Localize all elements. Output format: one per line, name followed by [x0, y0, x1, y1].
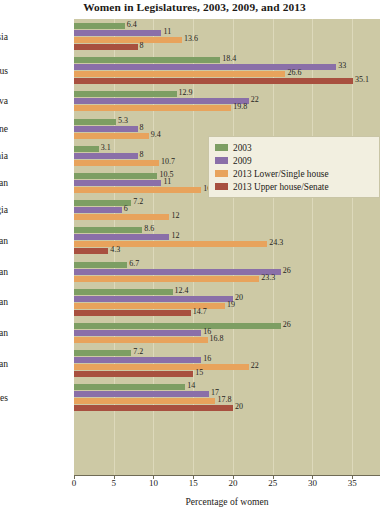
bar-value-label: 14: [187, 381, 195, 390]
bar-value-label: 7.2: [133, 347, 143, 356]
bar: [74, 384, 185, 390]
bar-group: 12.4201914.7: [74, 289, 380, 316]
bar-value-label: 26: [283, 320, 291, 329]
bar-value-label: 35.1: [355, 75, 369, 84]
category-label: Kazakhstan: [0, 235, 8, 246]
bar: [74, 323, 281, 329]
bar: [74, 180, 161, 186]
bar-group: 8.61224.34.3: [74, 227, 380, 254]
bar: [74, 133, 149, 139]
legend-swatch: [215, 144, 228, 151]
bar-group: 18.43326.635.1: [74, 57, 380, 84]
bar: [74, 398, 215, 404]
chart-legend: 200320092013 Lower/Single house2013 Uppe…: [208, 136, 380, 198]
bar: [74, 119, 116, 125]
bar: [74, 187, 201, 193]
bar: [74, 105, 231, 111]
category-label: Ukraine: [0, 123, 8, 134]
x-axis-tick-label: 35: [348, 478, 357, 488]
legend-swatch: [215, 157, 228, 164]
bar-value-label: 6.4: [127, 20, 137, 29]
bar: [74, 227, 142, 233]
legend-item: 2009: [215, 154, 375, 167]
bar: [74, 391, 209, 397]
bar-value-label: 22: [251, 95, 259, 104]
bar-value-label: 6: [124, 204, 128, 213]
category-label: Turkmenistan: [0, 327, 8, 338]
legend-item: 2013 Upper house/Senate: [215, 180, 375, 193]
bar: [74, 269, 281, 275]
category-label: Azerbaijan: [0, 177, 8, 188]
bar-group: 6.41113.68: [74, 23, 380, 50]
bar-value-label: 33: [338, 61, 346, 70]
legend-label: 2003: [233, 143, 252, 153]
bar-value-label: 4.3: [110, 245, 120, 254]
x-axis-tick-label: 15: [189, 478, 198, 488]
bar: [74, 241, 267, 247]
bar: [74, 207, 122, 213]
bar: [74, 91, 177, 97]
bar: [74, 276, 259, 282]
x-axis-tick-label: 5: [111, 478, 116, 488]
bar: [74, 23, 125, 29]
bar-value-label: 12: [171, 231, 179, 240]
bar-value-label: 3.1: [101, 143, 111, 152]
bar-value-label: 16.8: [210, 334, 224, 343]
bar-value-label: 20: [235, 402, 243, 411]
bar: [74, 71, 285, 77]
legend-swatch: [215, 170, 228, 177]
category-label: United States: [0, 392, 8, 403]
bar-value-label: 12: [171, 211, 179, 220]
bar-group: 141717.820: [74, 384, 380, 411]
bar-group: 12.92219.8: [74, 91, 380, 111]
bar-value-label: 19.8: [233, 102, 247, 111]
bar-value-label: 24.3: [269, 238, 283, 247]
category-label: Tajikistan: [0, 296, 8, 307]
bar: [74, 337, 208, 343]
plot-area: 6.41113.6818.43326.635.112.92219.85.389.…: [74, 19, 380, 475]
bar-group: 7.2162215: [74, 350, 380, 377]
bar-value-label: 26.6: [287, 68, 301, 77]
bar: [74, 262, 127, 268]
x-axis-tick-label: 30: [308, 478, 317, 488]
bar: [74, 37, 182, 43]
bar-group: 261616.8: [74, 323, 380, 343]
bar: [74, 357, 201, 363]
category-label: Russia: [0, 31, 8, 42]
legend-label: 2013 Lower/Single house: [233, 169, 329, 179]
chart-title: Women in Legislatures, 2003, 2009, and 2…: [0, 1, 389, 13]
bar: [74, 57, 220, 63]
bar-value-label: 6.7: [129, 259, 139, 268]
bar-value-label: 12.4: [175, 286, 189, 295]
bar-group: 6.72623.3: [74, 262, 380, 282]
bars-layer: 6.41113.6818.43326.635.112.92219.85.389.…: [74, 19, 380, 475]
bar-value-label: 5.3: [118, 116, 128, 125]
bar-value-label: 17.8: [217, 395, 231, 404]
bar: [74, 248, 108, 254]
bar: [74, 350, 131, 356]
bar: [74, 78, 353, 84]
bar-value-label: 23.3: [261, 273, 275, 282]
bar-value-label: 16: [203, 354, 211, 363]
legend-item: 2013 Lower/Single house: [215, 167, 375, 180]
bar: [74, 371, 193, 377]
bar: [74, 200, 131, 206]
bar-value-label: 11: [163, 177, 171, 186]
bar-value-label: 8: [140, 41, 144, 50]
bar-value-label: 18.4: [222, 54, 236, 63]
category-label: Uzbekistan: [0, 358, 8, 369]
category-label: Georgia: [0, 204, 8, 215]
bar-value-label: 8.6: [144, 224, 154, 233]
bar-value-label: 11: [163, 27, 171, 36]
bar-value-label: 9.4: [151, 130, 161, 139]
bar-group: 7.2612: [74, 200, 380, 220]
bar-value-label: 19: [227, 300, 235, 309]
category-label: Belarus: [0, 65, 8, 76]
legend-item: 2003: [215, 141, 375, 154]
bar: [74, 160, 159, 166]
bar-value-label: 12.9: [179, 88, 193, 97]
bar-value-label: 10.7: [161, 157, 175, 166]
bar-value-label: 7.2: [133, 197, 143, 206]
x-axis-title: Percentage of women: [74, 496, 380, 507]
bar-value-label: 15: [195, 368, 203, 377]
